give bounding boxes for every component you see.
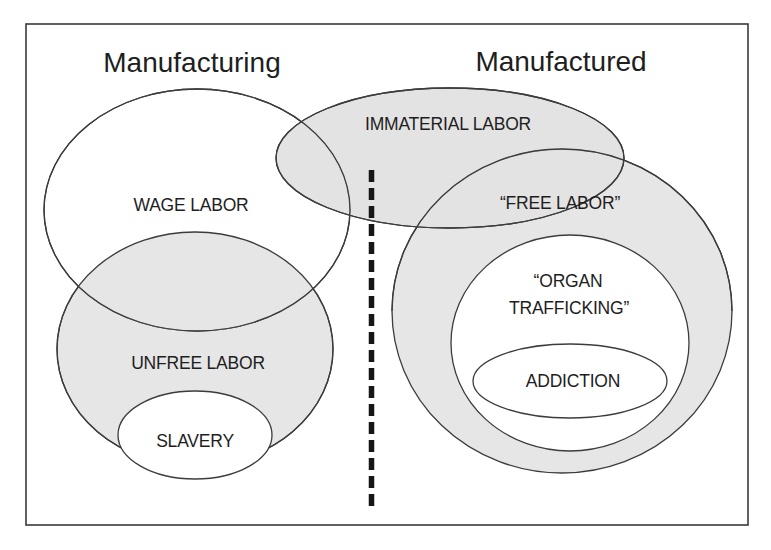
label-addiction: ADDICTION [526, 371, 620, 391]
label-organ-trafficking-line1: “ORGAN [534, 271, 603, 291]
label-slavery: SLAVERY [156, 431, 234, 451]
label-unfree-labor: UNFREE LABOR [131, 353, 265, 373]
labor-venn-diagram: Manufacturing Manufactured WAGE [0, 0, 771, 550]
label-free-labor: “FREE LABOR” [500, 193, 620, 213]
title-manufacturing: Manufacturing [103, 47, 280, 78]
label-immaterial-labor: IMMATERIAL LABOR [365, 114, 531, 134]
label-wage-labor: WAGE LABOR [133, 195, 248, 215]
label-organ-trafficking-line2: TRAFFICKING” [509, 298, 629, 318]
title-manufactured: Manufactured [475, 46, 646, 77]
